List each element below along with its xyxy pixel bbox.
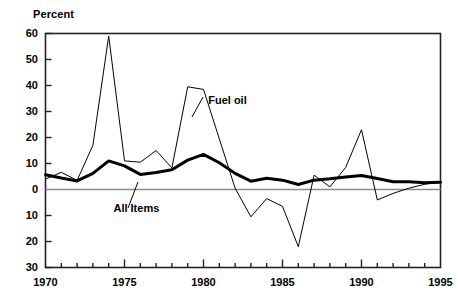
- y-axis-tick-label: 10: [8, 209, 38, 221]
- y-axis-tick-label: 60: [8, 27, 38, 39]
- x-axis-tick-label: 1985: [261, 276, 305, 288]
- y-axis-tick-label: 0: [8, 183, 38, 195]
- y-axis-tick-label: 30: [8, 105, 38, 117]
- series-line-all-items: [46, 154, 441, 184]
- chart-plot-area: [0, 0, 458, 300]
- y-axis-tick-label: 20: [8, 131, 38, 143]
- y-axis-tick-label: 30: [8, 261, 38, 273]
- x-axis-tick-label: 1970: [24, 276, 68, 288]
- x-axis-tick-label: 1980: [182, 276, 226, 288]
- plot-frame: [46, 34, 441, 268]
- x-axis-tick-label: 1990: [340, 276, 384, 288]
- chart-container: Percent 6050403020100102030 197019751980…: [0, 0, 458, 300]
- series-label-fuel-oil: Fuel oil: [208, 94, 247, 106]
- x-axis-tick-label: 1995: [419, 276, 458, 288]
- series-line-fuel-oil: [46, 36, 441, 247]
- series-label-all-items: All Items: [113, 202, 159, 214]
- y-axis-title: Percent: [33, 8, 74, 20]
- y-axis-tick-label: 40: [8, 79, 38, 91]
- x-axis-tick-label: 1975: [103, 276, 147, 288]
- y-axis-tick-label: 20: [8, 235, 38, 247]
- y-axis-tick-label: 50: [8, 53, 38, 65]
- y-axis-tick-label: 10: [8, 157, 38, 169]
- annotation-leader-line: [192, 97, 203, 117]
